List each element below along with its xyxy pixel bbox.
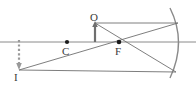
point-f-marker [117, 40, 122, 45]
label-center-of-curvature-c: C [62, 46, 69, 57]
ray-diagram-figure: O C F I [0, 0, 196, 86]
concave-mirror-arc [170, 8, 179, 78]
point-c-marker [65, 40, 69, 44]
image-arrow-head [16, 63, 22, 70]
label-focal-point-f: F [115, 46, 121, 57]
ray-focus-reflected [19, 70, 176, 72]
ray-parallel-reflected [19, 23, 178, 70]
label-object-o: O [90, 12, 98, 23]
ray-diagram-canvas [0, 0, 196, 86]
ray-through-focus-incident [95, 23, 176, 72]
label-image-i: I [14, 72, 18, 83]
